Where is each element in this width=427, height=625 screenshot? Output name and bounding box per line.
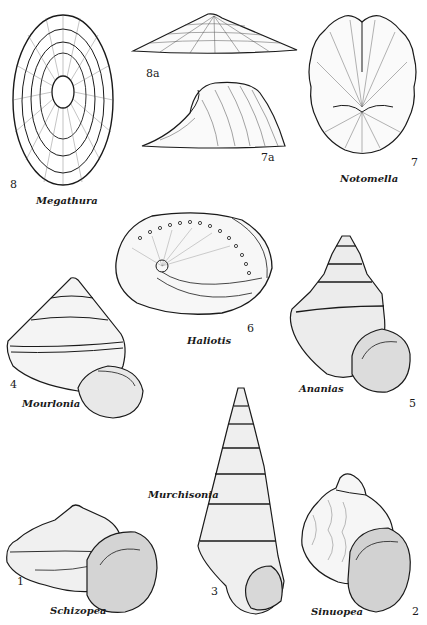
notomella-top-illustration (305, 12, 420, 157)
figure-number-4: 4 (10, 378, 17, 391)
figure-number-5: 5 (409, 397, 416, 410)
fossil-shell-plate: 8 Megathura 8a 7a (0, 0, 427, 625)
figure-number-3: 3 (211, 585, 218, 598)
label-schizopea: Schizopea (50, 605, 107, 616)
figure-number-6: 6 (247, 322, 254, 335)
label-mourlonia: Mourlonia (22, 398, 80, 409)
label-murchisonia: Murchisonia (148, 489, 219, 500)
figure-number-1: 1 (17, 575, 24, 588)
ananias-illustration (282, 234, 422, 399)
label-notomella: Notomella (340, 173, 398, 184)
megathura-top-illustration (8, 10, 118, 190)
figure-number-7a: 7a (261, 151, 275, 164)
label-haliotis: Haliotis (187, 335, 231, 346)
label-sinuopea: Sinuopea (311, 606, 363, 617)
megathura-side-illustration (130, 10, 300, 55)
figure-number-8: 8 (10, 178, 17, 191)
figure-number-7: 7 (411, 156, 418, 169)
label-megathura: Megathura (36, 195, 98, 206)
murchisonia-illustration (196, 386, 286, 618)
notomella-side-illustration (140, 78, 290, 150)
figure-number-2: 2 (412, 605, 419, 618)
schizopea-illustration (5, 500, 160, 620)
label-ananias: Ananias (299, 383, 344, 394)
sinuopea-illustration (298, 470, 418, 620)
